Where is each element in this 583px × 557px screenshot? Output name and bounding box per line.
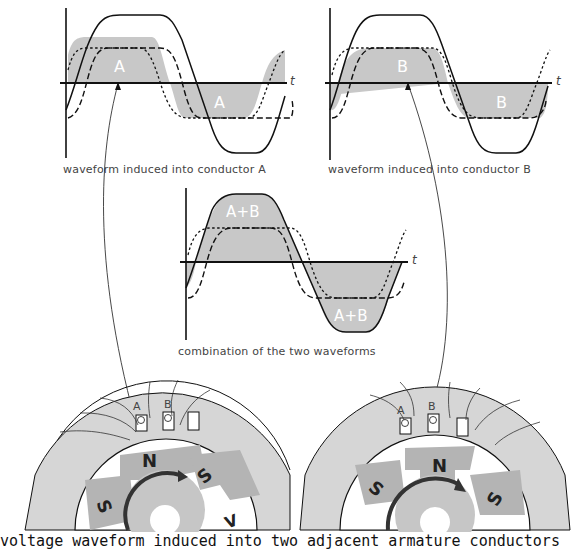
graph-conductor-b bbox=[325, 8, 552, 160]
graph-sum-neg-region-label: A+B bbox=[334, 307, 368, 325]
graph-a-pos-region-label: A bbox=[114, 57, 125, 76]
graph-b-axis-label: t bbox=[556, 74, 561, 88]
figure-caption: voltage waveform induced into two adjace… bbox=[0, 532, 560, 550]
graph-conductor-a bbox=[60, 8, 293, 158]
right-conductor-a-label: A bbox=[397, 404, 405, 417]
pointer-line-a bbox=[103, 84, 135, 420]
left-conductor-a-label: A bbox=[133, 400, 141, 413]
right-conductor-b-label: B bbox=[428, 400, 436, 413]
graph-a-axis-label: t bbox=[290, 74, 295, 88]
left-pole-n: N bbox=[142, 450, 157, 471]
left-conductor-b-label: B bbox=[164, 398, 172, 411]
graph-a-neg-region-label: A bbox=[214, 93, 225, 112]
graph-b-label: waveform induced into conductor B bbox=[328, 163, 531, 176]
graph-combined bbox=[180, 188, 408, 340]
graph-sum-axis-label: t bbox=[412, 253, 417, 267]
machine-left bbox=[25, 380, 290, 550]
pointer-line-b bbox=[408, 84, 447, 410]
graph-sum-label: combination of the two waveforms bbox=[178, 345, 376, 358]
graph-sum-pos-region-label: A+B bbox=[226, 203, 260, 221]
graph-b-neg-region-label: B bbox=[496, 93, 507, 112]
right-pole-n: N bbox=[432, 455, 447, 476]
graph-a-label: waveform induced into conductor A bbox=[63, 163, 266, 176]
graph-b-pos-region-label: B bbox=[397, 57, 408, 76]
